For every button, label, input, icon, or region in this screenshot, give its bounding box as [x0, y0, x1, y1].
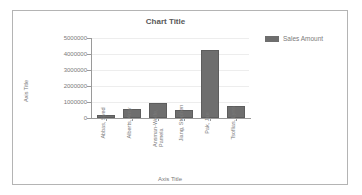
- x-axis-title: Axis Title: [91, 176, 249, 182]
- x-axis-line: [91, 118, 251, 119]
- y-tick-label: 3000000: [64, 67, 87, 73]
- x-category-label-jiang-stephen: Jiang, Stephen: [173, 123, 183, 175]
- y-tick-label: 1000000: [64, 99, 87, 105]
- y-tick-label: 4000000: [64, 51, 87, 57]
- bar-pak-jae[interactable]: [201, 50, 219, 118]
- y-axis-tick-labels: 5000000 4000000 3000000 2000000 1000000 …: [35, 11, 87, 186]
- legend-swatch-sales-amount: [265, 36, 279, 42]
- chart-container[interactable]: Chart Title Axis Title 5000000 4000000 3…: [12, 10, 348, 185]
- x-category-label-abbas-syed: Abbas, Syed: [95, 123, 105, 175]
- y-axis-title-label: Axis Title: [23, 80, 29, 102]
- y-axis-title: Axis Title: [19, 67, 33, 115]
- x-category-label-tsoflias-lynn: Tsoflias, Lynn: [225, 123, 235, 175]
- y-tick-label: 2000000: [64, 83, 87, 89]
- y-tick-label: 5000000: [64, 35, 87, 41]
- x-category-label-alberts-amy: Alberts, Amy: [121, 123, 131, 175]
- x-category-label-pak-jae: Pak, Jae: [199, 123, 209, 175]
- chart-title: Chart Title: [73, 17, 258, 26]
- bars-layer: [91, 38, 249, 118]
- chart-legend[interactable]: Sales Amount: [265, 35, 323, 42]
- x-category-label-ansman-wolfe-pamela: Ansman-Wolfe, Pamela: [147, 123, 157, 175]
- legend-label-sales-amount: Sales Amount: [283, 35, 323, 42]
